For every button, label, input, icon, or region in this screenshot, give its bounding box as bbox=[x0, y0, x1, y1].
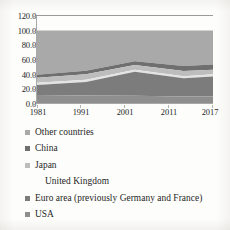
y-axis-label-80: 80.0 bbox=[2, 41, 36, 50]
legend-item-united-kingdom[interactable]: United Kingdom bbox=[25, 174, 225, 191]
legend-item-other-countries[interactable]: Other countries bbox=[25, 124, 225, 141]
x-axis-label-1991: 1991 bbox=[73, 108, 90, 118]
legend-label: China bbox=[35, 143, 58, 154]
legend-label: USA bbox=[35, 209, 54, 220]
x-axis-label-2011: 2011 bbox=[161, 108, 177, 118]
x-axis-label-2001: 2001 bbox=[117, 108, 134, 118]
legend-swatch-icon bbox=[25, 196, 30, 201]
y-axis-label-120: 120.0 bbox=[2, 12, 36, 21]
legend-item-usa[interactable]: USA bbox=[25, 207, 225, 224]
y-axis-label-60: 60.0 bbox=[2, 56, 36, 65]
y-axis: 120.0 100.0 80.0 60.0 40.0 20.0 0.0 bbox=[0, 4, 36, 116]
legend-swatch-icon bbox=[25, 163, 30, 168]
legend-label: Japan bbox=[35, 160, 57, 171]
legend-swatch-icon bbox=[35, 179, 40, 184]
stacked-area-chart: 120.0 100.0 80.0 60.0 40.0 20.0 0.0 bbox=[0, 4, 230, 122]
legend-label: Euro area (previously Germany and France… bbox=[35, 193, 202, 204]
legend-swatch-icon bbox=[25, 146, 30, 151]
chart-page: 120.0 100.0 80.0 60.0 40.0 20.0 0.0 bbox=[0, 0, 230, 230]
legend-label: Other countries bbox=[35, 127, 94, 138]
x-axis: 1981 1991 2001 2011 2017 bbox=[0, 105, 230, 121]
chart-legend: Other countries China Japan United Kingd… bbox=[25, 124, 225, 223]
y-axis-label-100: 100.0 bbox=[2, 27, 36, 36]
legend-item-euro-area[interactable]: Euro area (previously Germany and France… bbox=[25, 190, 225, 207]
y-axis-label-20: 20.0 bbox=[2, 85, 36, 94]
legend-label: United Kingdom bbox=[45, 176, 109, 187]
legend-swatch-icon bbox=[25, 212, 30, 217]
x-axis-label-1981: 1981 bbox=[30, 108, 47, 118]
x-axis-label-2017: 2017 bbox=[202, 108, 219, 118]
legend-item-china[interactable]: China bbox=[25, 141, 225, 158]
area-series-group bbox=[37, 16, 213, 103]
legend-item-japan[interactable]: Japan bbox=[25, 157, 225, 174]
plot-area bbox=[36, 16, 213, 104]
legend-swatch-icon bbox=[25, 130, 30, 135]
y-axis-label-40: 40.0 bbox=[2, 71, 36, 80]
